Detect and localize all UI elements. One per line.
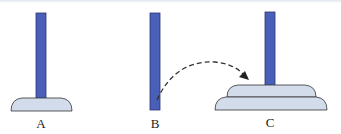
arrowhead-icon	[239, 71, 249, 80]
peg-a	[11, 13, 72, 111]
peg-label-a: A	[36, 116, 45, 132]
peg-label-b: B	[151, 116, 160, 132]
peg-c	[215, 12, 327, 110]
disk-c-1	[215, 97, 327, 110]
disk-a-1	[11, 98, 72, 111]
peg-label-c: C	[266, 115, 275, 131]
hanoi-diagram	[0, 0, 341, 134]
disk-c-2	[227, 85, 316, 97]
